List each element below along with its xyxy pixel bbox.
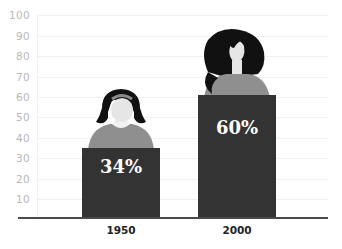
y-axis-line: [37, 14, 38, 218]
y-tick-50: 50: [0, 111, 30, 123]
y-tick-30: 30: [0, 152, 30, 164]
bar-2000: 60%: [198, 95, 276, 218]
y-tick-60: 60: [0, 91, 30, 103]
woman-1950-illustration-icon: [82, 86, 160, 150]
y-tick-70: 70: [0, 71, 30, 83]
y-tick-80: 80: [0, 50, 30, 62]
gridline-100: [38, 15, 328, 16]
gridline-80: [38, 56, 328, 57]
y-tick-10: 10: [0, 193, 30, 205]
bar-1950: 34%: [82, 148, 160, 218]
x-label-1950: 1950: [81, 224, 161, 236]
x-axis-baseline: [18, 217, 328, 219]
y-tick-100: 100: [0, 9, 30, 21]
y-tick-90: 90: [0, 30, 30, 42]
woman-2000-illustration-icon: [198, 28, 276, 98]
bar-value-label-1950: 34%: [82, 156, 160, 177]
y-tick-40: 40: [0, 132, 30, 144]
gridline-70: [38, 77, 328, 78]
bar-value-label-2000: 60%: [198, 117, 276, 138]
gridline-90: [38, 36, 328, 37]
x-label-2000: 2000: [197, 224, 277, 236]
y-tick-20: 20: [0, 173, 30, 185]
bar-chart: 100 90 80 70 60 50 40 30 20 10 34% 60%: [0, 0, 342, 249]
